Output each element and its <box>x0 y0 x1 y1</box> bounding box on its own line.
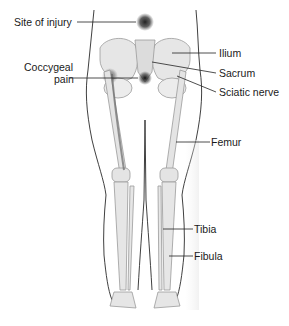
label-tibia: Tibia <box>194 223 216 235</box>
label-ilium: Ilium <box>219 47 241 59</box>
label-femur: Femur <box>211 136 241 148</box>
label-pain: pain <box>54 73 74 85</box>
label-fibula: Fibula <box>194 250 223 262</box>
label-sciatic-nerve: Sciatic nerve <box>219 86 279 98</box>
anatomy-diagram <box>0 0 289 326</box>
label-site-of-injury: Site of injury <box>14 16 72 28</box>
label-sacrum: Sacrum <box>219 67 255 79</box>
lower-legs <box>110 182 180 308</box>
label-coccygeal: Coccygeal <box>24 61 73 73</box>
injury-site-spot <box>136 13 154 31</box>
